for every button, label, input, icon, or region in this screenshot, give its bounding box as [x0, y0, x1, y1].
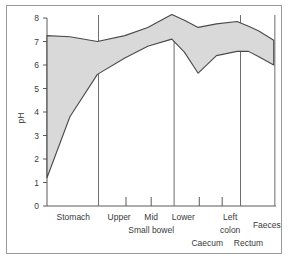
x-category-label: Stomach [57, 212, 91, 222]
x-category-label: Faeces [253, 220, 281, 230]
y-tick-label: 5 [34, 84, 39, 94]
x-category-label: Lower [172, 212, 195, 222]
x-axis-category-labels: StomachUpperMidLowerSmall bowelCaecumLef… [57, 212, 281, 248]
x-category-label: Caecum [191, 238, 223, 248]
y-axis-ticks [43, 18, 47, 206]
x-category-label: Mid [144, 212, 158, 222]
y-tick-label: 0 [34, 201, 39, 211]
y-axis-tick-labels: 012345678 [34, 13, 39, 211]
y-tick-label: 4 [34, 107, 39, 117]
y-tick-label: 2 [34, 154, 39, 164]
x-category-label: Upper [108, 212, 131, 222]
x-category-label: Small bowel [128, 225, 174, 235]
x-category-label: Rectum [234, 238, 263, 248]
y-axis-title: pH [16, 113, 26, 124]
x-category-label: colon [220, 225, 241, 235]
chart-svg: 012345678 pH StomachUpperMidLowerSmall b… [0, 0, 289, 266]
ph-range-band [47, 14, 274, 177]
ph-gi-tract-chart: 012345678 pH StomachUpperMidLowerSmall b… [0, 0, 289, 266]
y-tick-label: 1 [34, 178, 39, 188]
y-tick-label: 8 [34, 13, 39, 23]
y-tick-label: 6 [34, 60, 39, 70]
x-category-label: Left [223, 212, 238, 222]
y-tick-label: 7 [34, 37, 39, 47]
y-tick-label: 3 [34, 131, 39, 141]
